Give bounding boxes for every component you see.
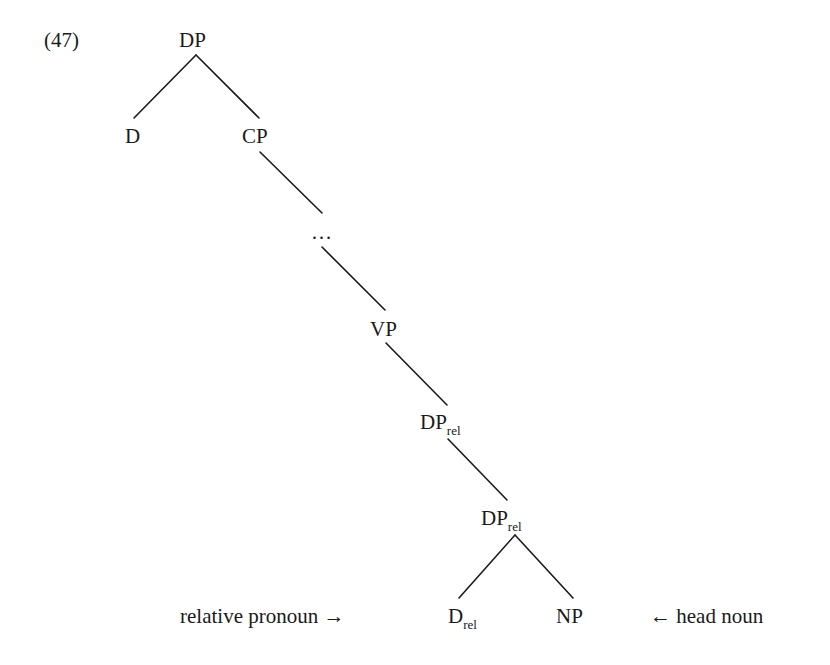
edge-ellipsis-vp bbox=[322, 247, 385, 310]
node-np: NP bbox=[556, 606, 583, 627]
node-dp-root: DP bbox=[179, 30, 206, 51]
edge-dp-cp bbox=[196, 55, 259, 118]
edge-dprel-dprel bbox=[448, 439, 507, 500]
annotation-relative-pronoun: relative pronoun → bbox=[180, 606, 344, 627]
node-label: D bbox=[125, 124, 140, 148]
node-label: CP bbox=[242, 124, 268, 148]
annotation-head-noun: ← head noun bbox=[650, 606, 763, 627]
edge-cp-ellipsis bbox=[260, 152, 322, 213]
example-number: (47) bbox=[44, 30, 79, 51]
node-subscript: rel bbox=[463, 617, 477, 632]
tree-edges bbox=[0, 0, 830, 665]
node-label: DP bbox=[481, 506, 508, 530]
node-subscript: rel bbox=[447, 423, 461, 438]
node-dp-rel-1: DPrel bbox=[420, 412, 461, 433]
node-d: D bbox=[125, 126, 140, 147]
node-label: VP bbox=[370, 317, 397, 341]
node-ellipsis: … bbox=[311, 222, 332, 243]
node-label: DP bbox=[420, 410, 447, 434]
node-d-rel: Drel bbox=[448, 606, 477, 627]
node-label: DP bbox=[179, 28, 206, 52]
edge-vp-dprel bbox=[386, 343, 447, 405]
node-vp: VP bbox=[370, 319, 397, 340]
syntax-tree-figure: (47) DP D CP … VP DPrel DPrel Drel NP re… bbox=[0, 0, 830, 665]
node-label: … bbox=[311, 220, 332, 244]
edge-dprel-drel bbox=[459, 535, 515, 598]
node-dp-rel-2: DPrel bbox=[481, 508, 522, 529]
edge-dp-d bbox=[134, 55, 196, 118]
node-label: D bbox=[448, 604, 463, 628]
node-cp: CP bbox=[242, 126, 268, 147]
node-label: NP bbox=[556, 604, 583, 628]
edge-dprel-np bbox=[515, 535, 573, 598]
node-subscript: rel bbox=[508, 519, 522, 534]
